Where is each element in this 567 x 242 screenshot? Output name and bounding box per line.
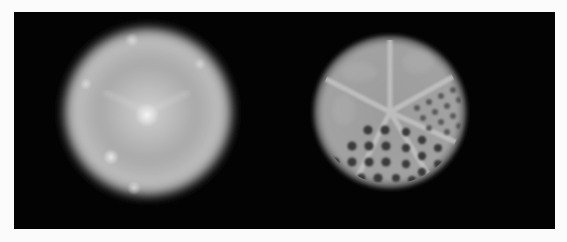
right-rod-phantom-image: [312, 34, 468, 190]
image-frame: [14, 12, 555, 229]
left-disc-image: [60, 24, 236, 200]
phantom-figure: [14, 12, 555, 229]
